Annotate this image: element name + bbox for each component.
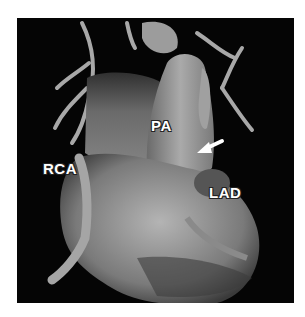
upper-vessel-blob bbox=[142, 22, 178, 53]
label-pa: PA bbox=[151, 118, 172, 133]
label-rca: RCA bbox=[43, 161, 77, 176]
label-lad: LAD bbox=[209, 185, 241, 200]
